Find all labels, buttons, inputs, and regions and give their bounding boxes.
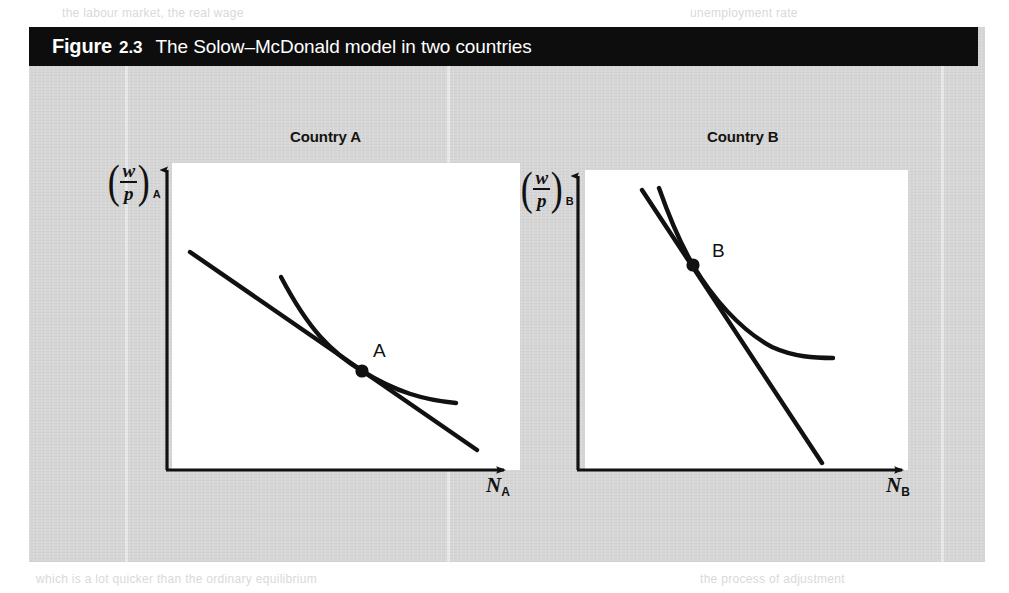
x-axis-label-country-b: NB [886,473,910,499]
curves-country-a [190,252,477,450]
equilibrium-point-b [686,258,699,271]
fraction-numerator: w [120,161,137,181]
equilibrium-label-a: A [373,340,386,362]
y-axis-label-country-a: ( w p ) A [106,161,161,204]
y-axis-label-country-b: ( w p ) B [519,168,574,211]
fraction-denominator: p [122,183,136,203]
page-background: the labour market, the real wage unemplo… [0,0,1009,593]
fraction-w-over-p: w p [120,161,137,204]
equilibrium-label-b: B [712,240,725,262]
paren-open: ( [521,175,533,203]
price-setting-curve-a [281,277,456,403]
fraction-denominator: p [535,190,549,210]
paren-close: ) [138,168,150,196]
paren-close: ) [551,175,563,203]
paren-open: ( [108,168,120,196]
fraction-numerator: w [533,168,550,188]
axes-country-a [166,170,504,470]
x-axis-symbol: N [886,473,901,497]
price-setting-curve-b [659,188,833,358]
equilibrium-point-a [355,364,368,377]
fraction-w-over-p: w p [533,168,550,211]
x-axis-subscript: A [501,485,510,499]
x-axis-label-country-a: NA [486,473,510,499]
curves-country-b [642,188,833,463]
x-axis-symbol: N [486,473,501,497]
y-axis-subscript: A [153,188,161,204]
figure-vector-layer [0,0,1009,593]
x-axis-subscript: B [901,485,910,499]
wage-setting-line-b [642,190,822,463]
y-axis-subscript: B [566,195,574,211]
